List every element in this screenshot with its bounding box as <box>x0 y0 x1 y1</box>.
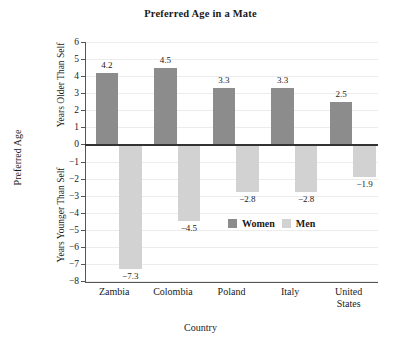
tick-mark <box>81 76 85 77</box>
tick-mark <box>81 264 85 265</box>
bar-value-men: −7.3 <box>110 272 150 281</box>
y-tick-label: 1 <box>59 123 79 132</box>
tick-mark <box>81 179 85 180</box>
legend-item-women[interactable]: Women <box>228 218 275 229</box>
bar-women <box>213 88 236 144</box>
x-axis-label-line: United <box>313 286 385 298</box>
y-tick-label: −8 <box>59 277 79 286</box>
tick-mark <box>81 127 85 128</box>
tick-mark <box>81 213 85 214</box>
tick-mark <box>81 42 85 43</box>
bar-women <box>271 88 294 144</box>
x-axis-label-united-states: UnitedStates <box>313 286 385 309</box>
bar-men <box>353 144 376 176</box>
bar-men <box>119 144 142 269</box>
tick-mark <box>81 230 85 231</box>
y-tick-label: 6 <box>59 38 79 47</box>
y-tick-label: −3 <box>59 192 79 201</box>
y-tick-label: 5 <box>59 55 79 64</box>
tick-mark <box>81 59 85 60</box>
bar-men <box>295 144 318 192</box>
legend-item-men[interactable]: Men <box>282 218 315 229</box>
legend-swatch-men <box>282 219 291 228</box>
y-tick-label: −2 <box>59 175 79 184</box>
y-tick-label: −5 <box>59 226 79 235</box>
y-tick-label: −4 <box>59 209 79 218</box>
bar-value-men: −2.8 <box>286 195 326 204</box>
bar-women <box>330 102 353 145</box>
tick-mark <box>81 110 85 111</box>
legend-label: Men <box>296 218 315 229</box>
bar-women <box>96 73 119 145</box>
bar-value-women: 2.5 <box>321 90 361 99</box>
tick-mark <box>81 196 85 197</box>
bar-value-men: −4.5 <box>169 224 209 233</box>
tick-mark <box>81 93 85 94</box>
y-tick-label: −1 <box>59 158 79 167</box>
zero-baseline <box>85 144 378 145</box>
bar-men <box>178 144 201 221</box>
y-axis-title: Preferred Age <box>12 103 23 213</box>
bar-value-men: −2.8 <box>227 195 267 204</box>
tick-mark <box>81 247 85 248</box>
x-axis-title: Country <box>0 322 401 333</box>
chart-title: Preferred Age in a Mate <box>0 8 401 19</box>
y-tick-label: 3 <box>59 89 79 98</box>
legend-swatch-women <box>228 219 237 228</box>
bar-women <box>154 68 177 145</box>
tick-mark <box>81 281 85 282</box>
y-tick-label: 4 <box>59 72 79 81</box>
y-tick-label: −6 <box>59 243 79 252</box>
x-axis-label-line: States <box>313 298 385 310</box>
bar-value-men: −1.9 <box>345 180 385 189</box>
plot-area: 6543210−1−2−3−4−5−6−7−8 4.2−7.34.5−4.53.… <box>85 42 378 283</box>
y-tick-label: 2 <box>59 106 79 115</box>
tick-mark <box>81 162 85 163</box>
bar-value-women: 3.3 <box>204 76 244 85</box>
y-tick-label: 0 <box>59 140 79 149</box>
bar-men <box>236 144 259 192</box>
legend-label: Women <box>242 218 275 229</box>
bar-value-women: 4.2 <box>87 61 127 70</box>
bar-value-women: 4.5 <box>145 56 185 65</box>
y-tick-label: −7 <box>59 260 79 269</box>
bar-value-women: 3.3 <box>263 76 303 85</box>
legend: WomenMen <box>228 218 315 229</box>
